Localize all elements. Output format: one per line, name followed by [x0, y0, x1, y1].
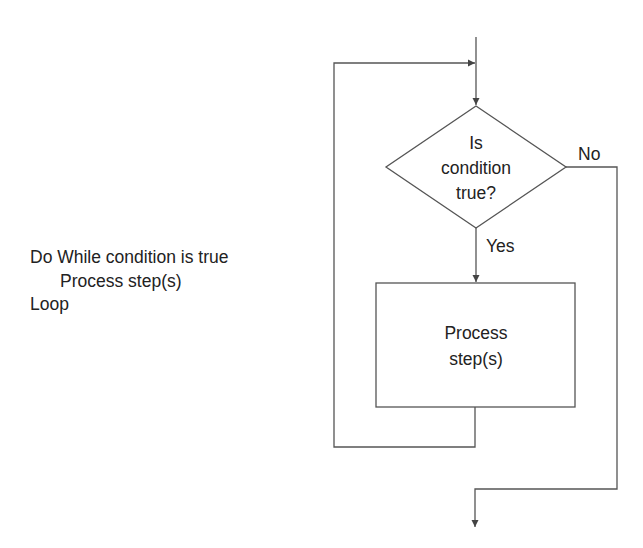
decision-text-line-1: Is: [469, 133, 483, 153]
no-label: No: [578, 144, 600, 164]
process-text-line-2: step(s): [449, 349, 502, 369]
decision-text-line-2: condition: [441, 158, 511, 178]
process-box: [376, 283, 575, 407]
process-text-line-1: Process: [444, 323, 507, 343]
flowchart: Is condition true? Yes Process step(s) N…: [0, 0, 643, 548]
yes-label: Yes: [486, 236, 515, 256]
decision-text-line-3: true?: [456, 183, 496, 203]
